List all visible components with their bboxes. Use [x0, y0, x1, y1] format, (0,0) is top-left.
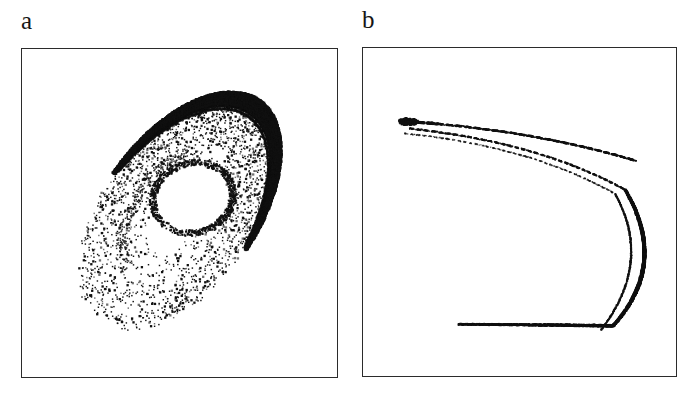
panel-b-scatter-plot [363, 48, 675, 375]
panel-a-label: a [21, 8, 32, 33]
panel-a: a [0, 0, 349, 396]
panel-b-frame [362, 47, 677, 377]
figure-root: a b [0, 0, 698, 396]
panel-b-label: b [362, 7, 375, 32]
panel-b: b [349, 0, 698, 396]
panel-a-frame [21, 48, 338, 378]
panel-a-scatter-plot [22, 49, 336, 376]
